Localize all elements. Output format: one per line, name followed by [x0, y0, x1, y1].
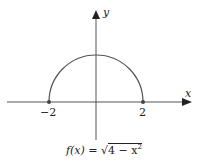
radicand-exponent: 2 [138, 143, 142, 151]
tick-2: 2 [139, 106, 146, 119]
caption-radicand: 4 − x2 [108, 143, 142, 157]
graph-canvas [0, 0, 198, 164]
endpoint-2 [141, 100, 145, 104]
y-axis-label: y [103, 6, 109, 19]
x-axis-label: x [185, 87, 191, 100]
tick-neg2: −2 [40, 106, 56, 119]
function-caption: f(x) = √4 − x2 [66, 143, 142, 157]
y-axis-arrow-icon [92, 10, 100, 19]
caption-prefix: f(x) = [66, 144, 101, 157]
endpoint-neg2 [47, 100, 51, 104]
radicand-text: 4 − x [108, 144, 137, 157]
